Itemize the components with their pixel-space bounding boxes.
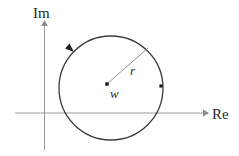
center-point-label: w — [110, 86, 119, 101]
real-axis-label: Re — [212, 106, 229, 122]
figure-canvas: Im Re w r — [0, 0, 239, 156]
complex-plane-figure: Im Re w r — [0, 0, 239, 156]
center-point-dot — [105, 82, 108, 85]
imaginary-axis — [41, 20, 48, 150]
radius-label: r — [130, 63, 136, 78]
imaginary-axis-label: Im — [33, 5, 50, 21]
radius-line — [107, 48, 148, 84]
circle-boundary-point — [159, 84, 162, 87]
real-axis-arrowhead — [203, 110, 209, 117]
direction-arrowhead — [65, 44, 76, 55]
